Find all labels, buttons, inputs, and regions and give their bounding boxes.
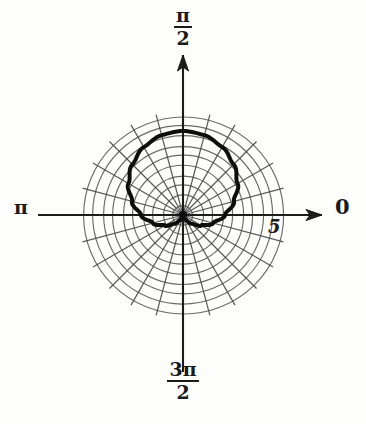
fraction-numerator: π bbox=[174, 6, 192, 28]
fraction-pi-over-two: π 2 bbox=[174, 6, 192, 48]
fraction-denominator: 2 bbox=[167, 382, 198, 402]
fraction-numerator: 3π bbox=[167, 360, 198, 382]
axis-label-zero: 0 bbox=[335, 196, 350, 217]
radius-tick-label-5: 5 bbox=[268, 216, 281, 237]
fraction-three-pi-over-two: 3π 2 bbox=[167, 360, 198, 402]
polar-plot-figure: π 2 3π 2 π 0 5 bbox=[0, 0, 366, 424]
axis-label-pi: π bbox=[14, 198, 28, 217]
axis-label-three-pi-over-two: 3π 2 bbox=[155, 360, 211, 402]
fraction-denominator: 2 bbox=[174, 28, 192, 48]
axis-label-pi-over-two: π 2 bbox=[161, 6, 205, 48]
